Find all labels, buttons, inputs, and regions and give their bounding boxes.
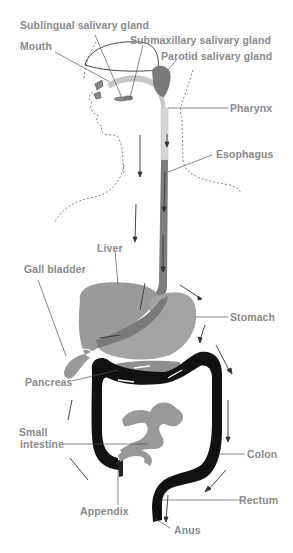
label-anus: Anus [174,525,201,536]
gall-bladder [64,354,90,379]
label-small-intestine-line1: Small [19,427,48,438]
label-pharynx: Pharynx [230,103,272,114]
label-sublingual-gland: Sublingual salivary gland [20,20,149,31]
label-rectum: Rectum [239,495,278,506]
small-intestine [120,402,183,456]
nasal-cavity-outline [85,42,158,71]
head-outline [55,42,240,222]
label-parotid-gland: Parotid salivary gland [161,51,272,62]
label-colon: Colon [247,449,277,460]
label-liver: Liver [97,243,123,254]
label-pancreas: Pancreas [25,377,73,388]
submaxillary-gland [123,96,133,101]
parotid-gland [152,66,171,97]
label-stomach: Stomach [230,312,275,323]
label-appendix: Appendix [80,506,129,517]
label-mouth: Mouth [20,41,52,52]
teeth-icon [94,80,103,99]
label-small-intestine-line2: intestine [20,439,64,450]
label-submaxillary-gland: Submaxillary salivary gland [130,35,271,46]
esophagus [153,160,168,300]
digestive-system-diagram [0,0,293,553]
appendix [118,460,123,477]
label-esophagus: Esophagus [216,149,274,160]
label-gall-bladder: Gall bladder [24,264,86,275]
